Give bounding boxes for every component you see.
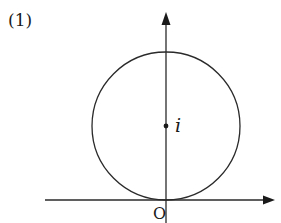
complex-plane-diagram (0, 0, 281, 223)
y-axis (162, 12, 171, 223)
figure-number: (1) (8, 12, 32, 29)
center-label-i: i (175, 116, 181, 135)
center-point (164, 124, 169, 129)
y-axis-arrow-icon (162, 12, 171, 25)
x-axis-arrow-icon (263, 196, 275, 205)
origin-label: O (153, 206, 166, 222)
